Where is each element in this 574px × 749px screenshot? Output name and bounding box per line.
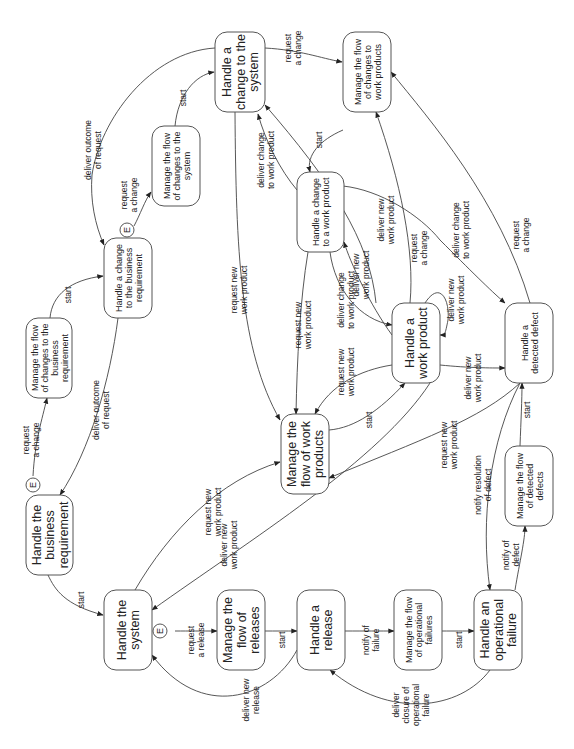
- node-handle-a-detected-defect[interactable]: Handle adetected defect: [505, 303, 553, 383]
- edge-label: start: [178, 89, 188, 106]
- node-label: Handle thebusinessrequirement: [30, 501, 71, 568]
- edge-label: requesta change: [119, 177, 139, 212]
- node-label: Manage the flowof changes towork product…: [353, 38, 383, 105]
- node-manage-the-flow-of-changes-to-the-system[interactable]: Manage the flowof changes to thesystem: [152, 126, 200, 206]
- edge-label: request newwork product: [203, 487, 223, 537]
- edge-a11: start: [309, 110, 343, 172]
- edge-label: request newwork product: [229, 265, 249, 315]
- edge-a2: start: [175, 68, 214, 128]
- edge-label: notify ofdefect: [501, 539, 521, 569]
- edge-label: start: [454, 631, 464, 648]
- node-handle-an-operational-failure[interactable]: Handle anoperationalfailure: [474, 590, 522, 670]
- edge-label: notify offailure: [361, 624, 381, 654]
- node-handle-the-system[interactable]: Handle thesystem: [104, 590, 152, 670]
- edge-label: requesta change: [409, 230, 429, 265]
- edge-a32: notify offailure: [345, 610, 394, 670]
- node-label: Handle arelease: [308, 605, 336, 655]
- edge-label: requesta change: [283, 30, 303, 65]
- edge-a6: requesta change: [19, 398, 47, 476]
- edge-label: start: [364, 411, 374, 428]
- node-manage-the-flow-of-work-products[interactable]: Manage theflow of workproducts: [281, 414, 329, 494]
- edge-a29: requesta release: [175, 610, 217, 670]
- node-handle-a-change-to-a-work-product[interactable]: Handle a changeto a work product: [297, 172, 344, 252]
- edge-label: request newwork product: [336, 347, 356, 397]
- edge-a20: request newwork product: [315, 342, 392, 414]
- edge-label: deliver changeto work product: [336, 270, 356, 329]
- node-manage-the-flow-of-operational-failures[interactable]: Manage the flowof operationalfailures: [394, 590, 442, 670]
- edge-a33: start: [442, 610, 474, 670]
- svg-text:E: E: [28, 482, 38, 488]
- edge-label: requesta change: [21, 422, 41, 457]
- node-label: Handle a changeto a work product: [311, 177, 331, 247]
- node-handle-a-change-to-the-business-requirement[interactable]: Handle a changeto the businessrequiremen…: [104, 238, 152, 318]
- node-handle-a-change-to-the-system[interactable]: Handle achange to thesystem: [215, 32, 265, 112]
- edges-layer: requesta changestartrequesta changedeliv…: [19, 18, 532, 735]
- edge-a5: start: [50, 265, 103, 325]
- edge-a30: start: [265, 610, 297, 670]
- edge-a34: deliverclosure ofoperationalfailure: [330, 670, 490, 735]
- edge-label: deliver newwork product: [446, 275, 466, 325]
- edge-a26: notify ofdefect: [499, 525, 525, 590]
- node-manage-the-flow-of-releases[interactable]: Manage theflow ofreleases: [217, 590, 265, 670]
- edge-label: requesta change: [511, 217, 531, 252]
- process-flow-diagram: requesta changestartrequesta changedeliv…: [0, 0, 574, 749]
- edge-label: deliver newwork product: [376, 195, 396, 245]
- edge-label: deliver changeto work product: [451, 200, 471, 259]
- edge-label: start: [277, 631, 287, 648]
- edge-label: request newwork product: [439, 420, 459, 470]
- edge-a10: deliver changeto work product: [254, 114, 297, 190]
- edge-line: [50, 276, 103, 318]
- node-handle-the-business-requirement[interactable]: Handle thebusinessrequirement: [26, 495, 73, 575]
- edge-label: deliver changeto work product: [256, 130, 276, 189]
- edge-a1: requesta change: [265, 18, 342, 78]
- edge-a24: start: [520, 380, 532, 446]
- edge-label: deliver newwork product: [463, 353, 483, 403]
- node-handle-a-release[interactable]: Handle arelease: [297, 590, 345, 670]
- edge-a8: start: [48, 570, 103, 630]
- edge-label: requesta release: [186, 622, 206, 657]
- node-manage-the-flow-of-changes-to-the-business-requirement[interactable]: Manage the flowof changes to thebusiness…: [26, 318, 72, 398]
- event-marker-icon: E: [120, 223, 134, 237]
- node-label: Manage theflow of workproducts: [285, 420, 326, 487]
- edge-label: start: [76, 591, 86, 608]
- edge-a3: requesta change: [117, 165, 151, 226]
- event-marker-icon: E: [26, 478, 40, 492]
- svg-text:E: E: [155, 628, 165, 634]
- edge-label: request newwork product: [293, 300, 313, 350]
- node-manage-the-flow-of-changes-to-work-products[interactable]: Manage the flowof changes towork product…: [343, 32, 391, 112]
- edge-label: start: [314, 131, 324, 148]
- node-label: Handle a changeto the businessrequiremen…: [114, 244, 144, 312]
- edge-label: start: [63, 286, 73, 303]
- edge-label: start: [522, 401, 532, 418]
- node-handle-a-work-product[interactable]: Handle awork product: [392, 303, 440, 383]
- svg-text:E: E: [122, 227, 132, 233]
- edge-line: [265, 48, 342, 62]
- edge-a19: request newwork product: [291, 252, 313, 414]
- edge-a22: deliver newwork product: [440, 348, 505, 408]
- event-marker-icon: E: [153, 624, 167, 638]
- node-manage-the-flow-of-detected-defects[interactable]: Manage the flowof detecteddefects: [505, 446, 553, 526]
